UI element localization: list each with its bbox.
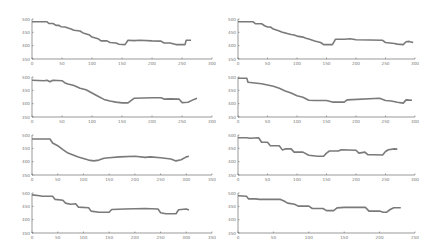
x-tick-label: 250 xyxy=(382,61,390,66)
x-tick-label: 150 xyxy=(323,119,331,124)
x-tick-label: 300 xyxy=(182,177,190,182)
x-tick-label: 250 xyxy=(382,119,390,124)
line-chart-r1c2: 500450400350050100150200250300 xyxy=(228,17,419,67)
x-tick-label: 200 xyxy=(148,119,156,124)
x-tick-label: 150 xyxy=(323,61,331,66)
x-tick-label: 200 xyxy=(352,119,360,124)
y-tick-label: 500 xyxy=(228,17,236,22)
chart-grid: 5004504003500501001502002503005004504003… xyxy=(0,0,440,251)
y-tick-label: 350 xyxy=(228,173,236,178)
x-tick-label: 250 xyxy=(178,119,186,124)
line-chart-r1c1: 500450400350050100150200250300 xyxy=(22,17,216,67)
x-tick-label: 0 xyxy=(237,177,240,182)
x-tick-label: 200 xyxy=(131,235,139,240)
x-tick-label: 100 xyxy=(293,177,301,182)
axes xyxy=(32,77,212,117)
y-tick-label: 500 xyxy=(228,133,236,138)
line-chart-r2c1: 500450400350050100150200250300 xyxy=(22,75,216,125)
y-tick-label: 350 xyxy=(22,231,30,236)
x-tick-label: 300 xyxy=(411,177,419,182)
series-line xyxy=(238,22,413,45)
series-line xyxy=(32,195,189,214)
y-tick-label: 500 xyxy=(228,191,236,196)
line-chart-r3c2: 500450400350050100150200250300 xyxy=(228,133,419,183)
series-line xyxy=(32,22,191,45)
x-tick-label: 250 xyxy=(178,61,186,66)
x-tick-label: 300 xyxy=(182,235,190,240)
x-tick-label: 0 xyxy=(31,235,34,240)
x-tick-label: 0 xyxy=(31,61,34,66)
y-tick-label: 500 xyxy=(22,191,30,196)
y-tick-label: 500 xyxy=(22,17,30,22)
x-tick-label: 50 xyxy=(55,235,61,240)
y-tick-label: 350 xyxy=(22,57,30,62)
x-tick-label: 150 xyxy=(323,177,331,182)
x-tick-label: 50 xyxy=(271,235,277,240)
axes xyxy=(32,135,212,175)
line-chart-r3c1: 500450400350050100150200250300350 xyxy=(22,133,216,183)
y-tick-label: 400 xyxy=(22,101,30,106)
x-tick-label: 250 xyxy=(411,235,419,240)
y-tick-label: 450 xyxy=(22,204,30,209)
x-tick-label: 50 xyxy=(265,177,271,182)
x-tick-label: 150 xyxy=(105,235,113,240)
x-tick-label: 200 xyxy=(376,235,384,240)
series-line xyxy=(238,196,401,213)
y-tick-label: 400 xyxy=(228,101,236,106)
x-tick-label: 350 xyxy=(208,177,216,182)
line-chart-r4c2: 500450400350050100150200250 xyxy=(228,191,419,241)
y-tick-label: 350 xyxy=(228,115,236,120)
y-tick-label: 400 xyxy=(228,159,236,164)
y-tick-label: 400 xyxy=(22,217,30,222)
x-tick-label: 350 xyxy=(208,235,216,240)
y-tick-label: 450 xyxy=(22,30,30,35)
y-tick-label: 350 xyxy=(228,57,236,62)
axes xyxy=(238,135,415,175)
series-line xyxy=(32,139,189,161)
axes xyxy=(238,77,415,117)
x-tick-label: 200 xyxy=(131,177,139,182)
x-tick-label: 250 xyxy=(157,177,165,182)
x-tick-label: 150 xyxy=(340,235,348,240)
x-tick-label: 0 xyxy=(31,177,34,182)
y-tick-label: 400 xyxy=(22,43,30,48)
y-tick-label: 350 xyxy=(228,231,236,236)
x-tick-label: 150 xyxy=(105,177,113,182)
y-tick-label: 400 xyxy=(22,159,30,164)
y-tick-label: 500 xyxy=(22,133,30,138)
x-tick-label: 150 xyxy=(118,61,126,66)
x-tick-label: 250 xyxy=(157,235,165,240)
series-line xyxy=(238,138,397,157)
x-tick-label: 0 xyxy=(237,61,240,66)
x-tick-label: 0 xyxy=(237,235,240,240)
small-multiples-svg: 5004504003500501001502002503005004504003… xyxy=(0,0,440,251)
x-tick-label: 300 xyxy=(411,61,419,66)
x-tick-label: 50 xyxy=(59,61,65,66)
y-tick-label: 500 xyxy=(228,75,236,80)
series-line xyxy=(32,80,197,103)
x-tick-label: 200 xyxy=(148,61,156,66)
y-tick-label: 450 xyxy=(22,146,30,151)
y-tick-label: 400 xyxy=(228,217,236,222)
line-chart-r2c2: 500450400350050100150200250300 xyxy=(228,75,419,125)
y-tick-label: 450 xyxy=(228,204,236,209)
y-tick-label: 500 xyxy=(22,75,30,80)
x-tick-label: 200 xyxy=(352,177,360,182)
y-tick-label: 400 xyxy=(228,43,236,48)
x-tick-label: 0 xyxy=(237,119,240,124)
line-chart-r4c1: 500450400350050100150200250300350 xyxy=(22,191,216,241)
x-tick-label: 150 xyxy=(118,119,126,124)
x-tick-label: 0 xyxy=(31,119,34,124)
series-line xyxy=(238,78,412,103)
x-tick-label: 100 xyxy=(293,61,301,66)
x-tick-label: 250 xyxy=(382,177,390,182)
x-tick-label: 50 xyxy=(265,61,271,66)
y-tick-label: 350 xyxy=(22,115,30,120)
x-tick-label: 50 xyxy=(265,119,271,124)
x-tick-label: 100 xyxy=(293,119,301,124)
x-tick-label: 300 xyxy=(208,119,216,124)
y-tick-label: 450 xyxy=(22,88,30,93)
x-tick-label: 300 xyxy=(208,61,216,66)
x-tick-label: 100 xyxy=(88,119,96,124)
x-tick-label: 100 xyxy=(305,235,313,240)
